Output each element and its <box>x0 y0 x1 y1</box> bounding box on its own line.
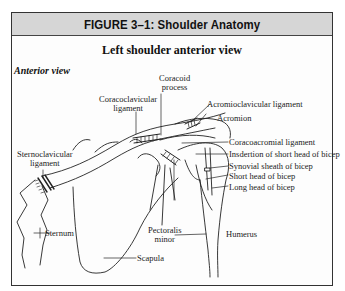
label-sternum: Sternum <box>45 229 74 238</box>
biceps-tendons-shape <box>196 148 212 210</box>
sternoclavicular-ligament-shape <box>35 175 54 193</box>
label-insertion-short-head: Insdertion of short head of bicep <box>229 150 340 159</box>
coracoclavicular-ligament-shape <box>133 134 161 143</box>
pectoralis-minor-shape <box>150 165 175 225</box>
label-coracoclavicular-ligament: Coracoclavicular ligament <box>99 95 157 113</box>
label-sternoclavicular-ligament: Sternoclavicular ligament <box>17 150 73 168</box>
label-acromioclavicular-ligament: Acromioclavicular ligament <box>207 100 303 109</box>
coracoid-shape <box>130 139 160 176</box>
sternum-shape <box>17 180 48 268</box>
label-coracoid-process: Coracoid process <box>159 74 190 92</box>
label-long-head: Long head of bicep <box>229 183 295 192</box>
label-scapula: Scapula <box>137 254 164 263</box>
label-synovial-sheath: Synovial sheath of bicep <box>229 162 313 171</box>
coracoacromial-ligament-shape <box>161 150 180 165</box>
label-acromion: Acromion <box>217 114 251 123</box>
label-coracoacromial-ligament: Coracoacromial ligament <box>229 138 315 147</box>
label-short-head: Short head of bicep <box>229 172 295 181</box>
label-pectoralis-minor: Pectoralis minor <box>148 226 182 244</box>
label-humerus: Humerus <box>226 230 257 239</box>
humerus-shape <box>178 143 229 277</box>
